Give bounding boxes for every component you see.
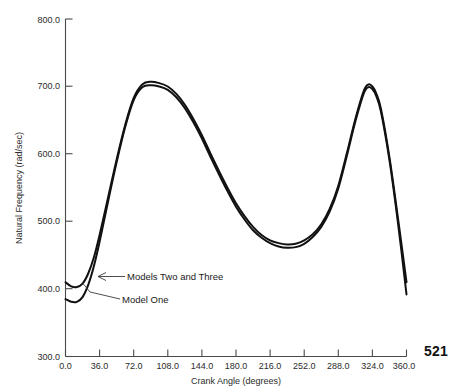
x-tick-label-7: 252.0 (293, 361, 316, 371)
figure-panel: 300.0 400.0 500.0 600.0 700.0 800.0 0.0 … (0, 0, 457, 392)
x-tick-label-6: 216.0 (259, 361, 282, 371)
y-tick-label-2: 500.0 (37, 216, 60, 226)
y-axis-title: Natural Frequency (rad/sec) (14, 132, 24, 244)
x-axis-tick-labels: 0.0 36.0 72.0 108.0 144.0 180.0 216.0 25… (59, 361, 415, 371)
page-number: 521 (424, 343, 448, 359)
x-tick-label-8: 288.0 (327, 361, 350, 371)
x-tick-label-2: 72.0 (125, 361, 143, 371)
x-axis-title: Crank Angle (degrees) (191, 376, 281, 386)
x-axis-ticks (66, 350, 407, 357)
natural-frequency-vs-crank-angle-chart: 300.0 400.0 500.0 600.0 700.0 800.0 0.0 … (0, 0, 457, 392)
x-tick-label-10: 360.0 (393, 361, 416, 371)
y-axis-ticks (66, 19, 73, 357)
annotation-leaders (83, 273, 125, 300)
y-tick-label-4: 700.0 (37, 81, 60, 91)
x-tick-label-3: 108.0 (157, 361, 180, 371)
annotation-model-one: Model One (122, 294, 168, 305)
x-tick-label-9: 324.0 (361, 361, 384, 371)
y-axis-tick-labels: 300.0 400.0 500.0 600.0 700.0 800.0 (37, 15, 60, 362)
data-curves-group (66, 82, 407, 303)
axes-group (66, 19, 407, 357)
y-tick-label-5: 800.0 (37, 15, 60, 25)
x-tick-label-0: 0.0 (59, 361, 72, 371)
y-tick-label-3: 600.0 (37, 149, 60, 159)
y-tick-label-0: 300.0 (37, 352, 60, 362)
annotation-models-two-and-three: Models Two and Three (127, 271, 223, 282)
x-tick-label-1: 36.0 (91, 361, 109, 371)
curve-models-two-and-three (66, 82, 407, 287)
x-tick-label-5: 180.0 (225, 361, 248, 371)
x-tick-label-4: 144.0 (191, 361, 214, 371)
y-tick-label-1: 400.0 (37, 284, 60, 294)
